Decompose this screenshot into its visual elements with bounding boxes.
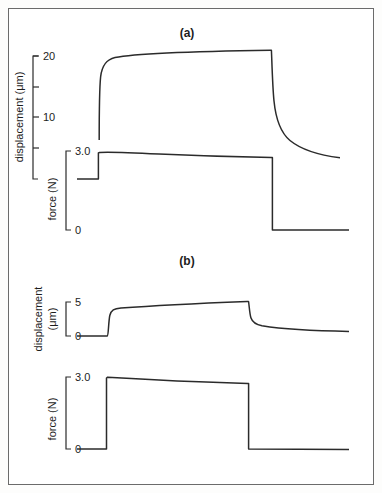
displacement-axis-title-a: displacement (μm) bbox=[13, 72, 25, 163]
panel-a-force-axis: 3.0 0 force (N) bbox=[46, 145, 90, 236]
force-axis-title-a: force (N) bbox=[46, 178, 58, 221]
force-tick-label-3-b: 3.0 bbox=[75, 371, 90, 383]
panel-a: (a) 20 10 displacement (μm) bbox=[13, 26, 349, 236]
panel-a-displacement-axis: 20 10 displacement (μm) bbox=[13, 50, 55, 179]
trace-displacement-b bbox=[77, 301, 349, 336]
figure-container: (a) 20 10 displacement (μm) bbox=[0, 0, 382, 493]
panel-b-displacement-axis: 5 0 displacement (μm) bbox=[32, 287, 81, 352]
panel-a-label: (a) bbox=[180, 26, 195, 40]
force-axis-bracket-b bbox=[66, 377, 71, 449]
panel-b: (b) 5 0 displacement (μm) 3.0 0 force (N… bbox=[32, 254, 349, 455]
figure-svg: (a) 20 10 displacement (μm) bbox=[9, 9, 373, 484]
panel-b-force-axis: 3.0 0 force (N) bbox=[46, 371, 90, 455]
force-axis-bracket-a bbox=[66, 151, 71, 230]
trace-force-b bbox=[77, 377, 349, 449]
force-tick-label-0-a: 0 bbox=[75, 224, 81, 236]
trace-displacement-a-main bbox=[99, 50, 340, 158]
displacement-tick-label-10: 10 bbox=[43, 111, 55, 123]
displacement-tick-label-5-b: 5 bbox=[75, 296, 81, 308]
trace-force-a bbox=[77, 152, 349, 230]
figure-border: (a) 20 10 displacement (μm) bbox=[8, 8, 374, 485]
force-tick-label-3-a: 3.0 bbox=[75, 145, 90, 157]
displacement-axis-units-b: (μm) bbox=[46, 308, 58, 331]
force-axis-title-b: force (N) bbox=[46, 398, 58, 441]
displacement-axis-title-b: displacement bbox=[32, 287, 44, 352]
panel-b-label: (b) bbox=[179, 254, 194, 268]
displacement-tick-label-20: 20 bbox=[43, 50, 55, 62]
displacement-axis-bracket-b bbox=[66, 302, 71, 336]
